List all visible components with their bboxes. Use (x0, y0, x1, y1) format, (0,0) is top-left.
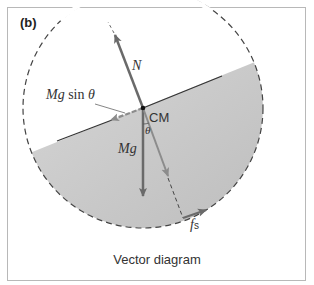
normal-force-dashed-extension (108, 22, 114, 33)
angle-label: θ (145, 124, 150, 136)
figure-caption: Vector diagram (0, 252, 314, 267)
center-of-mass-label: CM (149, 110, 169, 125)
normal-force-label: N (132, 58, 141, 74)
weight-label: Mg (118, 141, 137, 157)
mg-sin-theta-label: Mg sin θ (46, 87, 95, 103)
panel-label: (b) (20, 15, 37, 30)
vector-diagram (0, 0, 314, 285)
center-of-mass-point (141, 106, 146, 111)
friction-label: fs (190, 217, 199, 233)
mg-sin-theta-leader (95, 104, 125, 113)
